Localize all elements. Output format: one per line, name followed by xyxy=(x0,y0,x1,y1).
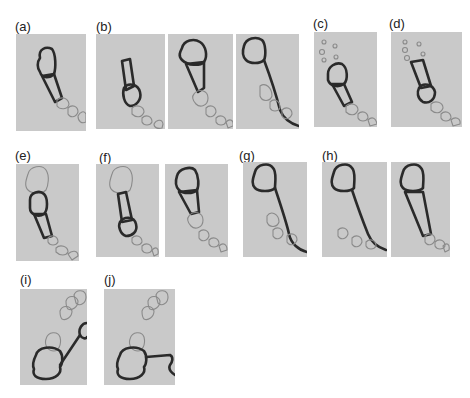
drawing-j xyxy=(104,289,175,385)
drawing-f-2 xyxy=(165,164,228,257)
panel-g xyxy=(243,162,307,257)
panel-label-e: (e) xyxy=(15,148,31,163)
panel-h-frame-2 xyxy=(391,162,450,257)
panel-label-f: (f) xyxy=(99,150,111,165)
panel-f-frame-2 xyxy=(165,164,228,257)
drawing-h-2 xyxy=(391,162,450,257)
panel-b-frame-2 xyxy=(168,34,233,129)
panel-label-j: (j) xyxy=(104,272,116,287)
drawing-b-1 xyxy=(96,34,165,129)
panel-label-a: (a) xyxy=(15,19,31,34)
drawing-b-2 xyxy=(168,34,233,129)
panel-h-frame-1 xyxy=(322,162,387,257)
panel-label-i: (i) xyxy=(20,272,32,287)
panel-b-frame-1 xyxy=(96,34,165,129)
panel-label-g: (g) xyxy=(239,148,255,163)
panel-label-d: (d) xyxy=(389,16,405,31)
drawing-f-1 xyxy=(96,164,159,257)
panel-f-frame-1 xyxy=(96,164,159,257)
drawing-h-1 xyxy=(322,162,387,257)
panel-d xyxy=(391,32,462,127)
drawing-e xyxy=(16,164,79,261)
panel-a xyxy=(16,34,86,131)
drawing-a xyxy=(16,34,86,131)
drawing-c xyxy=(314,32,377,127)
drawing-d xyxy=(391,32,462,127)
panel-i xyxy=(20,289,87,385)
drawing-b-3 xyxy=(236,34,299,129)
panel-b-frame-3 xyxy=(236,34,299,129)
panel-e xyxy=(16,164,79,261)
panel-label-c: (c) xyxy=(313,16,328,31)
drawing-i xyxy=(20,289,87,385)
panel-label-h: (h) xyxy=(322,148,338,163)
drawing-g xyxy=(243,162,307,257)
panel-c xyxy=(314,32,377,127)
panel-j xyxy=(104,289,175,385)
panel-label-b: (b) xyxy=(96,19,112,34)
